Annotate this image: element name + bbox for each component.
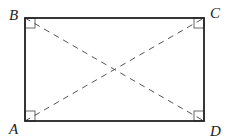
right-angle-mark-b — [25, 18, 35, 28]
vertex-label-c: C — [210, 5, 221, 21]
vertex-label-d: D — [209, 123, 221, 138]
right-angle-mark-d — [194, 111, 204, 121]
right-angle-mark-c — [194, 18, 204, 28]
rectangle-diagram: B C A D — [0, 0, 230, 138]
vertex-label-b: B — [9, 7, 18, 23]
right-angle-mark-a — [25, 111, 35, 121]
vertex-label-a: A — [8, 121, 19, 137]
diagram-svg: B C A D — [0, 0, 230, 138]
